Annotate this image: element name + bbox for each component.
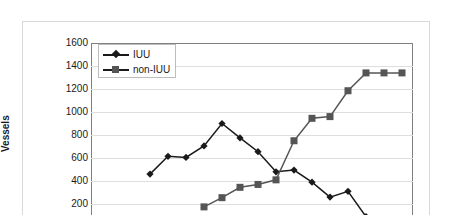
square-marker-icon: [309, 115, 316, 122]
y-axis-tick-labels: 1600140012001000800600400200: [52, 0, 88, 215]
square-marker-icon: [291, 137, 298, 144]
legend-item-non-iuu: non-IUU: [99, 62, 177, 77]
y-axis-tick-label: 1600: [54, 38, 88, 48]
square-marker-icon: [255, 181, 262, 188]
square-marker-icon: [327, 113, 334, 120]
y-axis-tick-label: 400: [54, 176, 88, 186]
series-line-iuu: [150, 124, 366, 216]
y-axis-tick-label: 1400: [54, 61, 88, 71]
legend-label-non-iuu: non-IUU: [133, 63, 170, 76]
diamond-marker-icon: [112, 50, 120, 58]
chart-legend: IUU non-IUU: [98, 44, 176, 78]
square-marker-icon: [237, 184, 244, 191]
square-marker-icon: [273, 176, 280, 183]
square-marker-icon: [381, 69, 388, 76]
chart-screenshot: Vessels on IUU lists Vessels 16001400120…: [0, 0, 454, 215]
legend-item-iuu: IUU: [99, 47, 177, 62]
y-axis-tick-label: 1000: [54, 107, 88, 117]
square-marker-icon: [363, 69, 370, 76]
square-marker-icon: [201, 203, 208, 210]
legend-label-iuu: IUU: [133, 48, 150, 61]
square-marker-icon: [399, 69, 406, 76]
y-axis-tick-label: 200: [54, 199, 88, 209]
square-marker-icon: [345, 87, 352, 94]
y-axis-tick-label: 800: [54, 130, 88, 140]
series-line-non-iuu: [204, 73, 402, 207]
square-marker-icon: [112, 66, 119, 73]
y-axis-tick-label: 600: [54, 153, 88, 163]
square-marker-icon: [219, 194, 226, 201]
y-axis-tick-label: 1200: [54, 84, 88, 94]
